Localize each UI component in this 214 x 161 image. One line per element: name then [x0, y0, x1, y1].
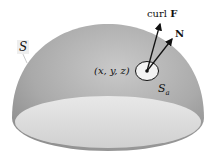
curl-f-label: curl F [147, 9, 177, 19]
f-text: F [170, 8, 177, 19]
hemisphere-base [15, 96, 201, 148]
disk-label: Sa [158, 83, 170, 97]
curl-text: curl [147, 8, 170, 19]
point-label: (x, y, z) [94, 66, 130, 76]
surface-label: S [17, 40, 29, 54]
disk-label-main: S [158, 82, 166, 95]
hemisphere-figure [0, 0, 214, 161]
normal-label: N [175, 29, 184, 39]
stokes-theorem-diagram: S curl F N (x, y, z) Sa [0, 0, 214, 161]
disk-label-sub: a [166, 89, 170, 97]
